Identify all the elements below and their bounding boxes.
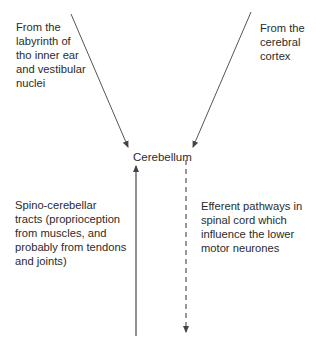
node-efferent-label: Efferent pathways in spinal cord which i… [201,199,302,255]
node-cortex-label: From the cerebral cortex [260,21,305,63]
node-spino-cerebellar-label: Spino-cerebellar tracts (proprioception … [15,198,126,268]
node-labyrinth-label: From the labyrinth of tho inner ear and … [16,20,86,90]
node-cerebellum-label: Cerebellum [133,150,192,164]
edge-cortex-to-cerebellum [193,12,251,147]
